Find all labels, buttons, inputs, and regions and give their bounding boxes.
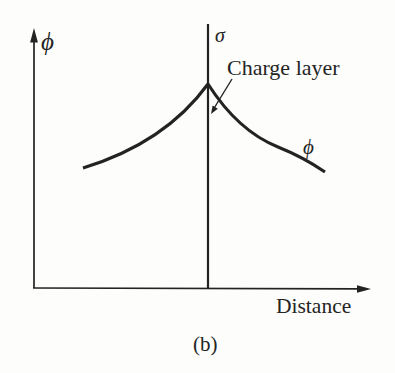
figure-caption: (b) [193, 332, 218, 356]
curve-symbol-label: ϕ [303, 135, 314, 159]
diagram-canvas: ϕ σ Charge layer ϕ Distance (b) [0, 0, 395, 373]
x-axis-label: Distance [276, 294, 351, 318]
charge-layer-label: Charge layer [227, 55, 340, 80]
sigma-label: σ [215, 24, 226, 46]
y-axis-symbol-label: ϕ [41, 28, 54, 55]
annotation-arrowhead-icon [211, 106, 218, 114]
potential-curve [83, 84, 325, 172]
phi-axis-arrowhead-icon [30, 28, 38, 43]
distance-axis-arrowhead-icon [357, 285, 371, 293]
figure-container: ϕ σ Charge layer ϕ Distance (b) [0, 0, 395, 373]
distance-axis [33, 288, 360, 289]
